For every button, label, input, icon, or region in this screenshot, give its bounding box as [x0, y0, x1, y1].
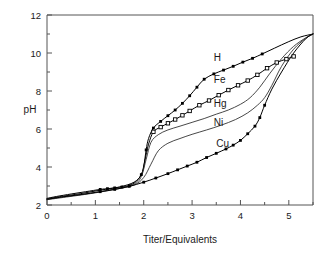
- series-label-cu: Cu: [216, 138, 229, 149]
- x-tick-label: 1: [93, 210, 98, 221]
- marker-fe: [173, 118, 176, 121]
- marker-cu: [176, 168, 179, 171]
- marker-fe: [207, 99, 210, 102]
- marker-h: [106, 187, 109, 190]
- marker-h: [159, 120, 162, 123]
- marker-cu: [263, 104, 266, 107]
- marker-fe: [246, 79, 249, 82]
- marker-h: [121, 186, 124, 189]
- marker-cu: [196, 161, 199, 164]
- marker-cu: [167, 172, 170, 175]
- marker-h: [152, 127, 155, 130]
- marker-cu: [186, 165, 189, 168]
- marker-h: [167, 114, 170, 117]
- marker-h: [261, 53, 264, 56]
- marker-h: [222, 69, 225, 72]
- y-axis-title: pH: [24, 104, 37, 115]
- marker-fe: [217, 93, 220, 96]
- marker-h: [145, 149, 148, 152]
- ph-titration-chart: 01234524681012 HFeHgNiCu Titer/Equivalen…: [0, 0, 328, 256]
- chart-figure: 01234524681012 HFeHgNiCu Titer/Equivalen…: [0, 0, 328, 256]
- marker-cu: [246, 132, 249, 135]
- marker-h: [174, 109, 177, 112]
- series-label-ni: Ni: [214, 117, 223, 128]
- marker-cu: [215, 152, 218, 155]
- marker-fe: [265, 67, 268, 70]
- marker-fe: [152, 130, 155, 133]
- marker-h: [251, 57, 254, 60]
- y-tick-label: 2: [36, 200, 41, 211]
- marker-fe: [181, 114, 184, 117]
- marker-cu: [205, 156, 208, 159]
- marker-fe: [256, 73, 259, 76]
- y-tick-label: 8: [36, 86, 41, 97]
- marker-h: [188, 94, 191, 97]
- marker-cu: [142, 181, 145, 184]
- marker-h: [241, 61, 244, 64]
- marker-cu: [232, 144, 235, 147]
- marker-cu: [128, 185, 131, 188]
- x-tick-label: 3: [189, 210, 194, 221]
- marker-fe: [159, 125, 162, 128]
- marker-cu: [113, 188, 116, 191]
- marker-cu: [154, 177, 157, 180]
- marker-h: [203, 78, 206, 81]
- marker-fe: [236, 84, 239, 87]
- marker-fe: [166, 122, 169, 125]
- x-tick-label: 2: [141, 210, 146, 221]
- y-tick-label: 6: [36, 124, 41, 135]
- marker-h: [196, 86, 199, 89]
- marker-h: [140, 173, 143, 176]
- series-label-h: H: [214, 52, 221, 63]
- x-tick-label: 4: [238, 210, 243, 221]
- marker-cu: [99, 190, 102, 193]
- y-tick-label: 4: [36, 162, 41, 173]
- marker-fe: [275, 61, 278, 64]
- marker-cu: [254, 125, 257, 128]
- x-axis-title: Titer/Equivalents: [143, 234, 217, 245]
- series-label-hg: Hg: [214, 98, 227, 109]
- marker-cu: [239, 139, 242, 142]
- marker-h: [181, 102, 184, 105]
- marker-fe: [198, 104, 201, 107]
- marker-fe: [285, 57, 288, 60]
- y-tick-label: 12: [30, 10, 41, 21]
- marker-fe: [292, 55, 295, 58]
- marker-h: [232, 65, 235, 68]
- x-tick-label: 0: [44, 210, 49, 221]
- marker-fe: [227, 88, 230, 91]
- x-tick-label: 5: [286, 210, 291, 221]
- y-tick-label: 10: [30, 48, 41, 59]
- marker-fe: [188, 109, 191, 112]
- series-label-fe: Fe: [214, 74, 226, 85]
- marker-cu: [258, 116, 261, 119]
